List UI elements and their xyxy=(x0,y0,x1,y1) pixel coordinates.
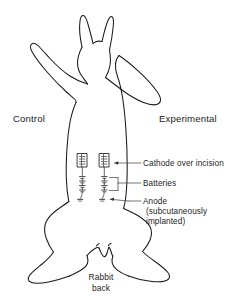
rabbit-diagram-svg xyxy=(0,0,241,306)
side-label-control: Control xyxy=(13,114,45,124)
cathode-electrode xyxy=(100,154,110,168)
figure-root: Control Experimental Cathode over incisi… xyxy=(0,0,241,306)
battery-chain xyxy=(80,177,86,192)
callout-leader-batteries xyxy=(110,178,142,191)
side-label-experimental: Experimental xyxy=(159,114,217,124)
experimental-device xyxy=(100,154,110,202)
callout-label-cathode: Cathode over incision xyxy=(143,159,224,169)
callout-sublabel-anode: (subcutaneously implanted) xyxy=(146,207,207,227)
caption-rabbit-back: Rabbit back xyxy=(74,272,128,294)
rabbit-outline xyxy=(28,15,169,283)
callout-leaders xyxy=(110,161,142,201)
battery-chain xyxy=(102,177,108,192)
callout-label-batteries: Batteries xyxy=(143,179,176,189)
callout-leader-cathode xyxy=(115,161,142,164)
cathode-electrode xyxy=(78,154,88,168)
callout-label-anode: Anode xyxy=(143,197,167,207)
control-device xyxy=(78,154,88,202)
